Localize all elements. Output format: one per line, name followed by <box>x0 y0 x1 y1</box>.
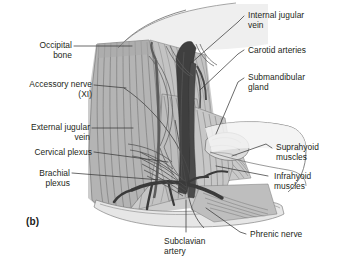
label-accessory-nerve: Accessory nerve (XI) <box>4 79 92 99</box>
figure-designation: (b) <box>26 216 39 227</box>
label-carotid-arteries: Carotid arteries <box>248 45 340 55</box>
label-brachial-plexus: Brachial plexus <box>14 168 70 188</box>
label-infrahyoid-muscles: Infrahyoid muscles <box>274 171 338 191</box>
label-internal-jugular-vein: Internal jugular vein <box>248 10 340 30</box>
label-occipital-bone: Occipital bone <box>10 40 72 60</box>
label-suprahyoid-muscles: Suprahyoid muscles <box>276 142 340 162</box>
label-cervical-plexus: Cervical plexus <box>8 147 92 157</box>
label-phrenic-nerve: Phrenic nerve <box>250 229 338 239</box>
label-external-jugular-vein: External jugular vein <box>4 122 90 142</box>
label-subclavian-artery: Subclavian artery <box>164 236 234 256</box>
label-submandibular-gland: Submandibular gland <box>248 72 340 92</box>
